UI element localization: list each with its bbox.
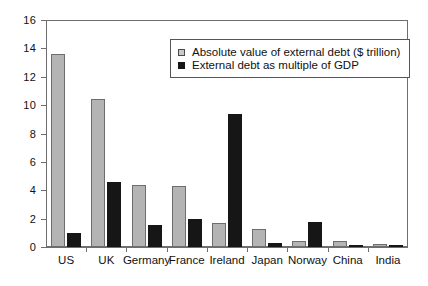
- x-axis-line: [46, 247, 408, 248]
- bar-chart: 0246810121416 USUKGermanyFranceIrelandJa…: [0, 0, 428, 286]
- bar: [188, 219, 202, 247]
- x-tick-label: Germany: [123, 254, 170, 266]
- bar: [228, 114, 242, 247]
- legend-swatch-black-icon: [178, 62, 185, 69]
- y-tick-label: 2: [14, 213, 36, 225]
- y-tick-label: 8: [14, 128, 36, 140]
- bar: [333, 241, 347, 247]
- legend-item-absolute-debt: Absolute value of external debt ($ trill…: [178, 46, 400, 58]
- legend-item-debt-multiple-gdp: External debt as multiple of GDP: [178, 59, 400, 71]
- chart-legend: Absolute value of external debt ($ trill…: [170, 39, 410, 78]
- legend-label-absolute-debt: Absolute value of external debt ($ trill…: [192, 46, 400, 58]
- bar: [349, 245, 363, 247]
- x-tick-mark: [328, 247, 329, 252]
- x-tick-mark: [368, 247, 369, 252]
- bar: [132, 185, 146, 247]
- x-tick-mark: [287, 247, 288, 252]
- y-tick-label: 10: [14, 99, 36, 111]
- bar: [308, 222, 322, 247]
- bar: [107, 182, 121, 247]
- bar: [172, 186, 186, 247]
- bar: [373, 244, 387, 247]
- bar: [268, 243, 282, 247]
- bar: [389, 245, 403, 247]
- x-tick-label: China: [333, 254, 363, 266]
- bar: [67, 233, 81, 247]
- y-tick-label: 4: [14, 184, 36, 196]
- bar: [51, 54, 65, 247]
- y-tick-label: 6: [14, 156, 36, 168]
- legend-label-debt-multiple-gdp: External debt as multiple of GDP: [192, 59, 359, 71]
- x-tick-label: Japan: [252, 254, 283, 266]
- x-tick-label: France: [169, 254, 205, 266]
- x-tick-label: UK: [98, 254, 114, 266]
- x-tick-label: Norway: [288, 254, 327, 266]
- x-tick-mark: [167, 247, 168, 252]
- bar: [91, 99, 105, 247]
- x-tick-label: US: [58, 254, 74, 266]
- x-tick-mark: [126, 247, 127, 252]
- y-tick-label: 0: [14, 241, 36, 253]
- legend-swatch-grey-icon: [178, 49, 185, 56]
- x-tick-label: Ireland: [209, 254, 244, 266]
- x-tick-mark: [247, 247, 248, 252]
- y-tick-label: 12: [14, 71, 36, 83]
- y-tick-label: 16: [14, 14, 36, 26]
- bar: [292, 241, 306, 247]
- bar: [148, 225, 162, 247]
- x-tick-mark: [86, 247, 87, 252]
- bar: [212, 223, 226, 247]
- bar: [252, 229, 266, 247]
- x-tick-mark: [207, 247, 208, 252]
- x-tick-label: India: [375, 254, 400, 266]
- y-tick-label: 14: [14, 42, 36, 54]
